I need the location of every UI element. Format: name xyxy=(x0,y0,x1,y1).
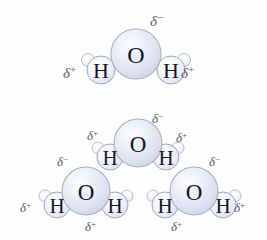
atom-label-hydrogen: H xyxy=(157,194,172,218)
delta-minus-cluster-top-oxygen: δ− xyxy=(152,110,163,126)
molecule-cluster-top: H H O xyxy=(92,119,184,170)
molecule-canvas: H H O H H O xyxy=(0,0,267,240)
delta-plus-cluster-left-left-hydrogen: δ+ xyxy=(20,199,31,215)
delta-plus-cluster-left-bottom-hydrogen: δ+ xyxy=(85,218,96,234)
delta-plus-cluster-right-right-hydrogen: δ+ xyxy=(234,199,245,215)
molecule-cluster-right: H H O xyxy=(147,167,241,218)
delta-plus-cluster-right-bottom-hydrogen: δ+ xyxy=(171,218,182,234)
atom-label-oxygen: O xyxy=(78,180,95,205)
atom-label-oxygen: O xyxy=(127,42,144,68)
atom-label-oxygen: O xyxy=(186,180,203,205)
atom-label-hydrogen: H xyxy=(158,146,173,170)
delta-plus-top-right-hydrogen: δ+ xyxy=(181,64,194,81)
atom-label-oxygen: O xyxy=(130,132,147,157)
delta-plus-cluster-top-left-hydrogen: δ+ xyxy=(87,127,98,143)
atom-label-hydrogen: H xyxy=(93,58,109,83)
delta-plus-cluster-top-right-hydrogen: δ+ xyxy=(176,129,187,145)
atom-label-hydrogen: H xyxy=(49,194,64,218)
delta-minus-cluster-right-oxygen: δ− xyxy=(209,153,220,169)
delta-plus-top-left-hydrogen: δ+ xyxy=(63,64,76,81)
delta-minus-top-oxygen: δ− xyxy=(150,12,163,29)
molecule-top: H H O xyxy=(82,29,191,84)
atom-label-hydrogen: H xyxy=(107,194,122,218)
water-polarity-diagram: H H O H H O xyxy=(0,0,267,240)
atom-label-hydrogen: H xyxy=(102,146,117,170)
atom-label-hydrogen: H xyxy=(215,194,230,218)
molecule-cluster-left: H H O xyxy=(39,167,133,218)
delta-minus-cluster-left-oxygen: δ− xyxy=(57,153,68,169)
atom-label-hydrogen: H xyxy=(163,58,179,83)
